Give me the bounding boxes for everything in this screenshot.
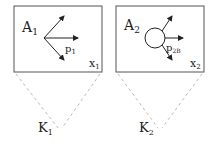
dashed-line-left [16, 74, 58, 128]
dashed-line-right [62, 74, 100, 128]
panel-1-vertex: K1 [38, 120, 53, 137]
diagram-canvas: A1 p1 x1 K1 A2 p2B x2 K2 [0, 0, 212, 145]
dashed-line-left [118, 74, 158, 128]
arrow-down-icon [44, 38, 64, 60]
dashed-line-right [162, 74, 202, 128]
diagram: A1 p1 x1 K1 A2 p2B x2 K2 [0, 0, 212, 145]
panel-2: A2 p2B x2 K2 [116, 6, 204, 137]
arrow-up-icon [162, 16, 172, 31]
panel-1: A1 p1 x1 K1 [14, 6, 102, 137]
panel-2-momentum: p2B [166, 42, 181, 54]
panel-1-corner: x1 [89, 57, 100, 71]
panel-1-momentum: p1 [65, 43, 76, 56]
panel-2-vertex: K2 [139, 120, 154, 137]
panel-1-label: A1 [21, 19, 38, 37]
arrow-up-icon [44, 16, 64, 38]
panel-2-corner: x2 [190, 57, 201, 71]
panel-2-label: A2 [123, 17, 140, 35]
